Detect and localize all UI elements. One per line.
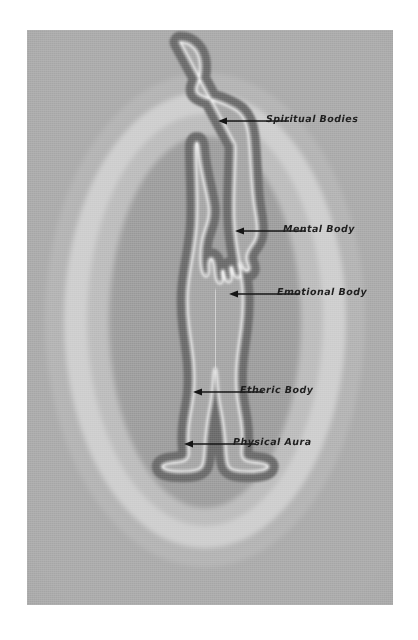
label-etheric-body: Etheric Body <box>240 385 313 396</box>
label-emotional-body: Emotional Body <box>277 287 367 298</box>
label-spiritual-bodies: Spiritual Bodies <box>266 114 358 125</box>
diagram-canvas: Spiritual Bodies Mental Body Emotional B… <box>0 0 418 640</box>
illustration-plate: Spiritual Bodies Mental Body Emotional B… <box>27 30 393 605</box>
label-physical-aura: Physical Aura <box>233 437 312 448</box>
label-mental-body: Mental Body <box>283 224 355 235</box>
